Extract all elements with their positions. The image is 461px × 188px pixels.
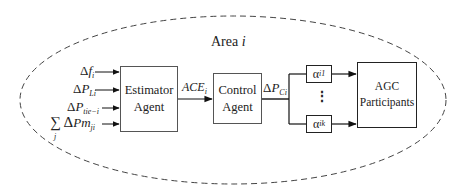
control-agent-box: Control Agent <box>213 73 262 124</box>
estimator-label-2: Agent <box>125 99 174 116</box>
input-sum-delta-pm: ∑ ΔPmji <box>50 115 95 132</box>
input-sub: i <box>92 71 94 80</box>
ellipsis: ⋮ <box>315 90 329 104</box>
dpc-sub: Ci <box>279 88 287 97</box>
ace-var: ACE <box>182 80 205 94</box>
alpha-ik-box: αik <box>306 115 332 133</box>
area-title-text: Area <box>211 34 238 49</box>
control-label-1: Control <box>218 82 256 99</box>
alpha-i1-box: αi1 <box>306 65 332 83</box>
input-sub: Li <box>89 89 96 98</box>
ace-sub: i <box>205 87 207 96</box>
agc-label-1: AGC <box>360 79 414 95</box>
alpha-sub: ik <box>319 119 325 130</box>
sum-index: j <box>54 133 56 141</box>
control-label-2: Agent <box>218 99 256 116</box>
estimator-label-1: Estimator <box>125 82 174 99</box>
dpc-label: ΔPCi <box>263 81 287 97</box>
input-var: Pm <box>73 115 90 130</box>
sum-delta-symbol: ∑ Δ <box>50 114 73 130</box>
area-title: Area i <box>211 35 246 49</box>
agc-participants-box: AGC Participants <box>357 62 417 128</box>
area-index: i <box>242 34 246 49</box>
input-delta-pl: ΔPLi <box>73 82 96 98</box>
input-delta-f: Δfi <box>80 64 94 80</box>
estimator-agent-box: Estimator Agent <box>120 66 178 132</box>
input-sub: ji <box>91 123 95 132</box>
ace-label: ACEi <box>182 81 207 96</box>
alpha-sub: i1 <box>319 69 325 80</box>
agc-label-2: Participants <box>360 95 414 111</box>
